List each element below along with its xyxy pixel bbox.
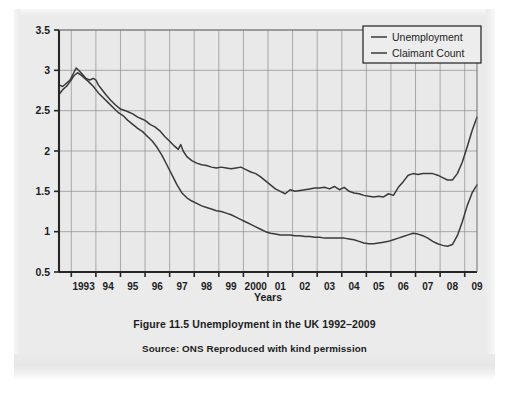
y-tick-label: 2.5 (35, 104, 50, 116)
source-caption: Source: ONS Reproduced with kind permiss… (0, 343, 509, 354)
x-tick-label: 96 (152, 281, 164, 292)
legend-label: Unemployment (392, 31, 463, 43)
y-tick-label: 3.5 (35, 24, 50, 36)
page-root: 3.532.521.510.51993949596979899200001020… (0, 0, 509, 399)
x-tick-label: 08 (447, 281, 459, 292)
x-tick-label: 06 (398, 281, 410, 292)
x-tick-label: 03 (324, 281, 336, 292)
grid-lines (59, 30, 477, 272)
y-tick-label: 1.5 (35, 185, 50, 197)
line-chart: 3.532.521.510.51993949596979899200001020… (0, 0, 509, 399)
legend-label: Claimant Count (392, 47, 464, 59)
y-tick-label: 2 (44, 145, 50, 157)
x-tick-label: 09 (471, 281, 483, 292)
figure-caption: Figure 11.5 Unemployment in the UK 1992–… (0, 318, 509, 330)
x-tick-label: 95 (127, 281, 139, 292)
x-tick-label: 97 (176, 281, 188, 292)
chart-figure: 3.532.521.510.51993949596979899200001020… (0, 0, 509, 399)
x-tick-label: 94 (103, 281, 115, 292)
y-tick-label: 1 (44, 225, 50, 237)
x-axis-label: Years (254, 291, 282, 303)
x-tick-label: 04 (348, 281, 360, 292)
x-tick-label: 99 (226, 281, 238, 292)
x-tick-label: 98 (201, 281, 213, 292)
x-tick-label: 07 (422, 281, 434, 292)
chart-legend: UnemploymentClaimant Count (363, 26, 481, 63)
x-tick-label: 02 (299, 281, 311, 292)
y-tick-label: 3 (44, 64, 50, 76)
x-tick-label: 05 (373, 281, 385, 292)
y-tick-label: 0.5 (35, 266, 50, 278)
x-tick-label: 1993 (72, 281, 95, 292)
